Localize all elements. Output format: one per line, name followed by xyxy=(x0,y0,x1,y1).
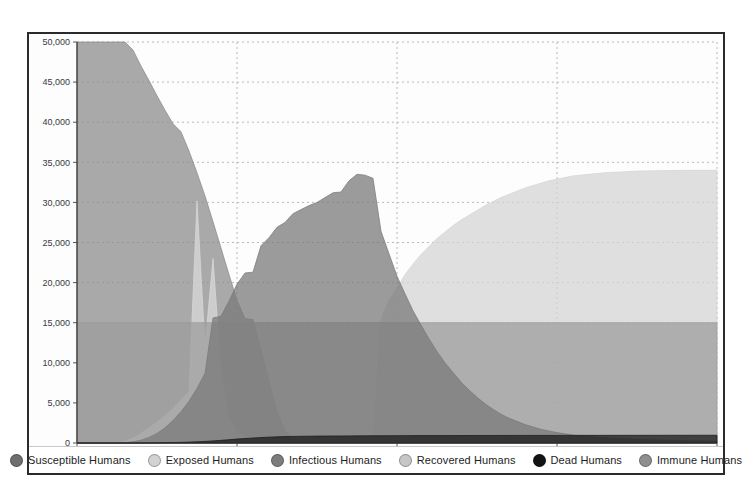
y-axis-tick-label: 25,000 xyxy=(42,238,70,248)
legend-item-label: Recovered Humans xyxy=(417,454,516,466)
y-axis-tick-label: 50,000 xyxy=(42,37,70,47)
legend-swatch-icon xyxy=(399,454,412,467)
chart-frame: 05,00010,00015,00020,00025,00030,00035,0… xyxy=(27,32,725,475)
legend-item-label: Infectious Humans xyxy=(289,454,382,466)
legend-swatch-icon xyxy=(271,454,284,467)
legend-item[interactable]: Immune Humans xyxy=(639,454,742,467)
y-axis-tick-label: 5,000 xyxy=(47,398,70,408)
legend-swatch-icon xyxy=(639,454,652,467)
y-axis-tick-label: 15,000 xyxy=(42,318,70,328)
legend-item-label: Exposed Humans xyxy=(166,454,254,466)
legend-item-label: Dead Humans xyxy=(551,454,622,466)
legend-item[interactable]: Dead Humans xyxy=(533,454,622,467)
y-axis-tick-label: 20,000 xyxy=(42,278,70,288)
y-axis-tick-label: 35,000 xyxy=(42,158,70,168)
chart-legend: Susceptible HumansExposed HumansInfectio… xyxy=(29,446,723,473)
legend-swatch-icon xyxy=(10,454,23,467)
legend-item-label: Susceptible Humans xyxy=(28,454,131,466)
legend-item[interactable]: Susceptible Humans xyxy=(10,454,131,467)
legend-swatch-icon xyxy=(533,454,546,467)
y-axis-tick-label: 45,000 xyxy=(42,77,70,87)
area-chart-svg: 05,00010,00015,00020,00025,00030,00035,0… xyxy=(29,34,723,473)
y-axis-tick-label: 10,000 xyxy=(42,358,70,368)
chart-root: 05,00010,00015,00020,00025,00030,00035,0… xyxy=(0,0,753,498)
legend-item-label: Immune Humans xyxy=(657,454,742,466)
y-axis-tick-label: 30,000 xyxy=(42,198,70,208)
legend-item[interactable]: Recovered Humans xyxy=(399,454,516,467)
y-axis-tick-label: 40,000 xyxy=(42,117,70,127)
legend-swatch-icon xyxy=(148,454,161,467)
legend-item[interactable]: Infectious Humans xyxy=(271,454,382,467)
plot-area: 05,00010,00015,00020,00025,00030,00035,0… xyxy=(29,34,723,473)
legend-item[interactable]: Exposed Humans xyxy=(148,454,254,467)
